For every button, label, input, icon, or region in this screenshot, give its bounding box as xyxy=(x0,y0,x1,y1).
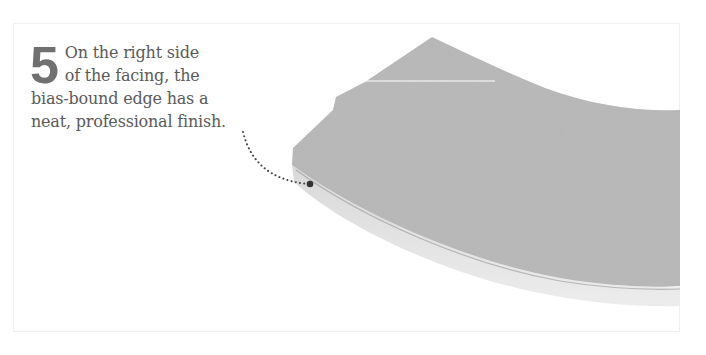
caption-line-3: bias-bound edge has a xyxy=(31,87,266,110)
step-number: 5 xyxy=(30,45,59,87)
caption-line-4: neat, professional finish. xyxy=(31,110,266,133)
caption-line-1: On the right side xyxy=(31,41,266,64)
fabric-facing xyxy=(292,37,680,287)
instruction-page: 5 On the right side of the facing, the b… xyxy=(0,0,706,355)
leader-dot xyxy=(307,181,314,188)
step-caption: 5 On the right side of the facing, the b… xyxy=(31,41,266,133)
caption-line-2: of the facing, the xyxy=(31,64,266,87)
